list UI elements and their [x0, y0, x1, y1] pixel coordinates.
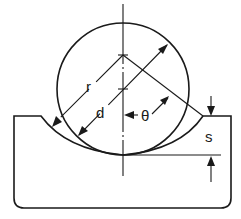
label-s: s [205, 128, 213, 145]
diagram-canvas: r d θ s [0, 0, 241, 219]
contact-line [123, 55, 203, 116]
angle-arrowhead-left [124, 111, 134, 119]
depth-arrowhead-bottom [207, 156, 215, 166]
label-d: d [96, 104, 104, 121]
label-r: r [86, 78, 91, 95]
ball-groove-diagram: r d θ s [0, 0, 241, 219]
depth-arrowhead-top [207, 106, 215, 116]
label-theta: θ [141, 107, 149, 124]
groove-radius-arrowhead [52, 116, 62, 127]
angle-arrowhead-right [160, 96, 169, 105]
